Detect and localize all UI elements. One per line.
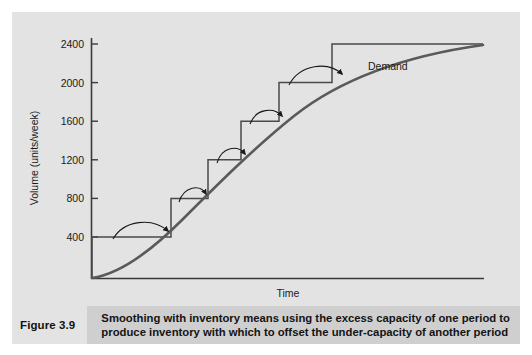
chart-svg: 2400 2000 1600 1200 800 400 Volume (unit… [12,12,520,302]
y-tick-label-800: 800 [66,192,84,204]
figure-container: 2400 2000 1600 1200 800 400 Volume (unit… [0,0,532,355]
figure-caption-band: Figure 3.9 Smoothing with inventory mean… [12,306,520,344]
y-tick-label-2000: 2000 [61,77,85,89]
y-tick-label-2400: 2400 [61,38,85,50]
x-axis-title: Time [277,287,300,299]
y-tick-label-400: 400 [66,231,84,243]
demand-curve-path [92,45,483,278]
y-tick-group [92,44,99,237]
capacity-step-series [92,44,483,278]
demand-curve-series [92,45,483,278]
y-tick-label-1200: 1200 [61,154,85,166]
capacity-step-path [92,44,483,278]
chart-plot-area: 2400 2000 1600 1200 800 400 Volume (unit… [12,12,520,302]
figure-number: Figure 3.9 [12,306,87,344]
inventory-arrow-group [113,66,342,239]
y-tick-labels: 2400 2000 1600 1200 800 400 [61,38,85,243]
caption-line-1: Smoothing with inventory means using the… [101,311,510,326]
caption-line-2: produce inventory with which to offset t… [101,325,510,340]
figure-caption-text: Smoothing with inventory means using the… [87,306,520,344]
demand-series-label: Demand [368,60,408,72]
axes-group [92,38,485,279]
y-tick-label-1600: 1600 [61,115,85,127]
y-axis-title: Volume (units/week) [28,111,40,206]
